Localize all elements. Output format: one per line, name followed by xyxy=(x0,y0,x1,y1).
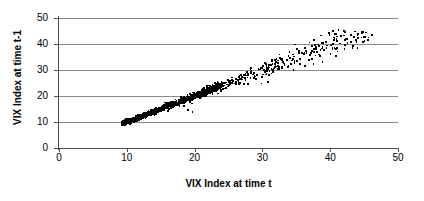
scatter-point xyxy=(171,105,173,107)
scatter-point xyxy=(271,61,273,63)
scatter-point xyxy=(298,50,300,52)
scatter-point xyxy=(129,124,131,126)
scatter-point xyxy=(180,96,182,98)
scatter-point xyxy=(203,89,205,91)
scatter-point xyxy=(267,81,269,83)
scatter-point xyxy=(272,63,274,65)
scatter-point xyxy=(329,34,331,36)
scatter-point xyxy=(168,108,170,110)
scatter-point xyxy=(291,60,293,62)
scatter-point xyxy=(245,79,247,81)
scatter-point xyxy=(156,111,158,113)
scatter-point xyxy=(323,42,325,44)
y-tick-mark-40 xyxy=(54,44,59,45)
y-tick-label-10: 10 xyxy=(22,117,48,127)
scatter-points-layer xyxy=(59,18,398,148)
scatter-point xyxy=(305,50,307,52)
scatter-point xyxy=(220,90,222,92)
scatter-point xyxy=(278,66,280,68)
scatter-point xyxy=(128,121,130,123)
scatter-point xyxy=(361,37,363,39)
scatter-point xyxy=(280,58,282,60)
scatter-point xyxy=(269,70,271,72)
scatter-point xyxy=(332,43,334,45)
scatter-point xyxy=(313,39,315,41)
scatter-point xyxy=(214,90,216,92)
scatter-point xyxy=(299,63,301,65)
scatter-point xyxy=(199,98,201,100)
scatter-point xyxy=(247,77,249,79)
scatter-point xyxy=(362,41,364,43)
y-axis-title: VIX Index at time t-1 xyxy=(12,13,23,143)
x-axis-title: VIX Index at time t xyxy=(59,178,398,189)
scatter-point xyxy=(332,49,334,51)
scatter-point xyxy=(318,45,320,47)
scatter-point xyxy=(340,35,342,37)
scatter-point xyxy=(355,39,357,41)
scatter-point xyxy=(344,48,346,50)
scatter-point xyxy=(256,74,258,76)
scatter-point xyxy=(187,98,189,100)
scatter-point xyxy=(356,41,358,43)
scatter-point xyxy=(344,44,346,46)
scatter-point xyxy=(261,76,263,78)
x-tick-label-20: 20 xyxy=(180,152,210,163)
scatter-point xyxy=(235,78,237,80)
scatter-point xyxy=(371,34,373,36)
scatter-point xyxy=(319,55,321,57)
scatter-point xyxy=(322,46,324,48)
y-tick-label-40: 40 xyxy=(22,39,48,49)
scatter-point xyxy=(361,31,363,33)
scatter-point xyxy=(268,65,270,67)
scatter-point xyxy=(267,67,269,69)
scatter-point xyxy=(217,83,219,85)
scatter-point xyxy=(315,46,317,48)
scatter-point xyxy=(293,69,295,71)
scatter-point xyxy=(332,30,334,32)
scatter-point xyxy=(326,45,328,47)
scatter-point xyxy=(354,31,356,33)
y-tick-label-30: 30 xyxy=(22,65,48,75)
scatter-point xyxy=(253,72,255,74)
scatter-point xyxy=(265,74,267,76)
scatter-point xyxy=(203,95,205,97)
scatter-point xyxy=(176,104,178,106)
scatter-point xyxy=(212,89,214,91)
x-tick-label-10: 10 xyxy=(112,152,142,163)
scatter-point xyxy=(335,33,337,35)
scatter-point xyxy=(246,71,248,73)
scatter-point xyxy=(228,79,230,81)
scatter-point xyxy=(271,59,273,61)
scatter-point xyxy=(133,118,135,120)
scatter-point xyxy=(180,102,182,104)
scatter-point xyxy=(289,51,291,53)
scatter-point xyxy=(146,116,148,118)
scatter-point xyxy=(182,102,184,104)
scatter-point xyxy=(284,64,286,66)
scatter-point xyxy=(208,91,210,93)
scatter-point xyxy=(192,111,194,113)
scatter-point xyxy=(338,29,340,31)
scatter-point xyxy=(187,109,189,111)
scatter-point xyxy=(160,110,162,112)
scatter-point xyxy=(274,66,276,68)
scatter-point xyxy=(167,110,169,112)
scatter-point xyxy=(306,53,308,55)
scatter-point xyxy=(304,65,306,67)
scatter-point xyxy=(191,103,193,105)
scatter-point xyxy=(290,63,292,65)
scatter-point xyxy=(322,61,324,63)
scatter-point xyxy=(313,51,315,53)
scatter-point xyxy=(357,37,359,39)
scatter-point xyxy=(212,93,214,95)
scatter-point xyxy=(323,49,325,51)
scatter-point xyxy=(243,77,245,79)
scatter-point xyxy=(361,33,363,35)
x-tick-label-50: 50 xyxy=(383,152,413,163)
scatter-point xyxy=(217,86,219,88)
scatter-point xyxy=(288,65,290,67)
scatter-point xyxy=(365,32,367,34)
scatter-point xyxy=(215,87,217,89)
scatter-point xyxy=(132,121,134,123)
scatter-point xyxy=(335,55,337,57)
